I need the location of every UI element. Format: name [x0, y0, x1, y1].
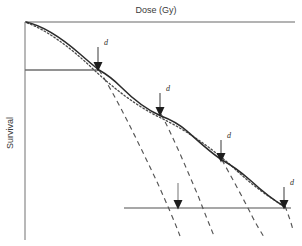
fraction-dose-arrow-4: d: [280, 178, 296, 210]
single-dose-isoeffect-arrow: [174, 183, 183, 210]
single-dose-dashed-curves: [99, 70, 293, 237]
arrow-head: [156, 107, 165, 117]
chart-title: Dose (Gy): [135, 5, 176, 15]
fraction-dose-label-1: d: [104, 38, 109, 47]
fraction-dose-arrow-1: d: [94, 38, 110, 72]
fraction-dose-label-4: d: [290, 178, 295, 187]
fraction-dose-arrow-2: d: [156, 84, 172, 117]
survival-curve-figure: d d d d: [0, 0, 302, 246]
fraction-dose-arrows: d d d d: [94, 38, 296, 210]
y-axis-label: Survival: [5, 117, 15, 149]
effective-survival-dotted-curve: [27, 23, 285, 207]
chart-canvas: d d d d: [0, 0, 302, 246]
axes-group: [25, 22, 295, 240]
single-dose-curve-1-dashed: [99, 70, 180, 236]
fraction-dose-label-3: d: [227, 131, 232, 140]
fraction-dose-label-2: d: [166, 84, 171, 93]
single-dose-curve-3-dashed: [222, 160, 264, 237]
single-dose-curve-4-dashed: [285, 206, 293, 230]
fraction-dose-arrow-3: d: [217, 131, 233, 163]
